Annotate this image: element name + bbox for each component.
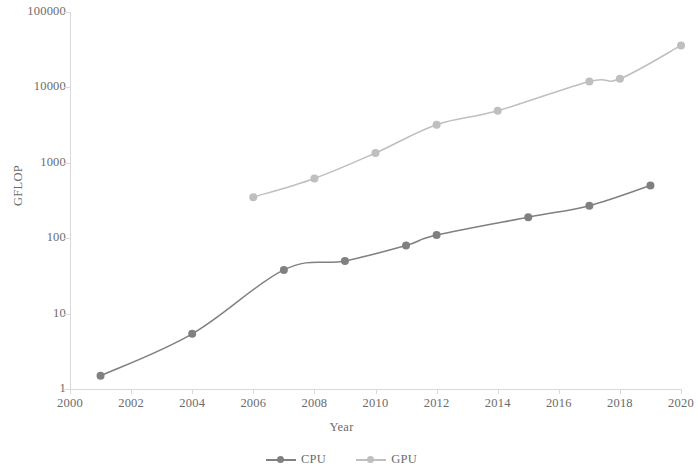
chart-legend: CPUGPU — [0, 452, 683, 467]
data-point-marker — [524, 213, 532, 221]
data-point-marker — [616, 75, 624, 83]
data-point-marker — [341, 257, 349, 265]
data-point-marker — [310, 174, 318, 182]
series-line — [101, 186, 651, 376]
legend-item-gpu[interactable]: GPU — [356, 452, 417, 467]
legend-marker-icon — [356, 454, 386, 465]
series-gpu — [249, 41, 685, 201]
data-point-marker — [402, 242, 410, 250]
data-point-marker — [433, 121, 441, 129]
data-point-marker — [249, 193, 257, 201]
legend-marker-icon — [266, 454, 296, 465]
data-point-marker — [585, 202, 593, 210]
data-point-marker — [433, 231, 441, 239]
legend-item-cpu[interactable]: CPU — [266, 452, 326, 467]
data-point-marker — [97, 372, 105, 380]
legend-label: CPU — [301, 452, 326, 467]
data-point-marker — [188, 330, 196, 338]
series-line — [253, 45, 681, 197]
data-point-marker — [494, 107, 502, 115]
data-point-marker — [585, 77, 593, 85]
data-point-marker — [372, 149, 380, 157]
data-point-marker — [646, 182, 654, 190]
data-point-marker — [677, 41, 685, 49]
legend-label: GPU — [391, 452, 417, 467]
data-point-marker — [280, 266, 288, 274]
series-cpu — [97, 182, 655, 380]
